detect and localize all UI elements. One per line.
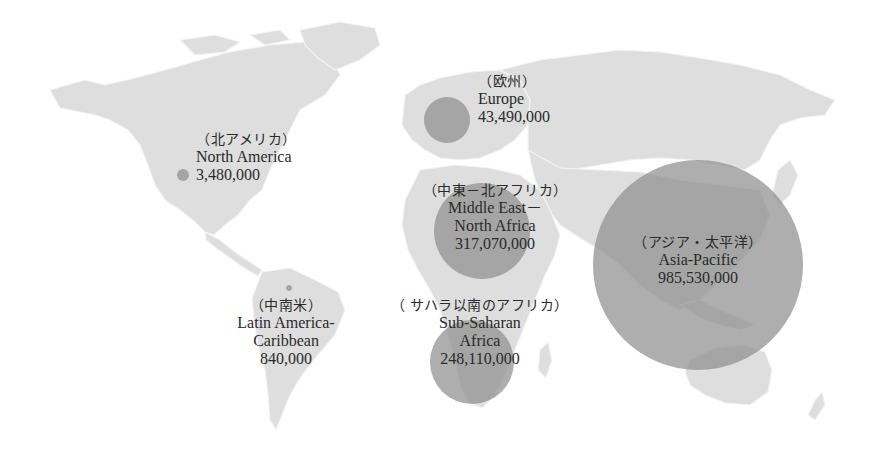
bubble-latin-america-caribbean[interactable] — [286, 285, 292, 291]
region-name-en-line2: Africa — [382, 332, 578, 350]
land-north-asia — [500, 50, 835, 170]
region-value: 840,000 — [222, 350, 350, 368]
region-name-en: Sub-Saharan — [382, 314, 578, 332]
land-central-america — [205, 232, 262, 276]
region-value: 3,480,000 — [196, 166, 297, 184]
region-name-ja: （ サハラ以南のアフリカ） — [382, 296, 578, 314]
label-sub-saharan-africa: （ サハラ以南のアフリカ） Sub-Saharan Africa 248,110… — [382, 296, 578, 368]
label-middle-east-north-africa: （中東－北アフリカ） Middle East－ North Africa 317… — [420, 181, 570, 253]
label-north-america: （北アメリカ） North America 3,480,000 — [196, 130, 297, 184]
region-name-ja: （中東－北アフリカ） — [420, 181, 570, 199]
region-name-en: Middle East－ — [420, 199, 570, 217]
region-value: 985,530,000 — [618, 269, 778, 287]
region-value: 248,110,000 — [382, 350, 578, 368]
region-name-ja: （欧州） — [478, 72, 550, 90]
region-name-ja: （北アメリカ） — [196, 130, 297, 148]
label-europe: （欧州） Europe 43,490,000 — [478, 72, 550, 126]
land-north-america — [50, 42, 340, 235]
region-name-ja: （アジア・太平洋） — [618, 233, 778, 251]
bubble-north-america[interactable] — [177, 169, 189, 181]
region-name-en-line2: Caribbean — [222, 332, 350, 350]
region-name-en: Asia-Pacific — [618, 251, 778, 269]
bubble-europe[interactable] — [424, 97, 470, 143]
region-name-en-line2: North Africa — [420, 217, 570, 235]
region-value: 317,070,000 — [420, 235, 570, 253]
region-value: 43,490,000 — [478, 108, 550, 126]
region-name-en: North America — [196, 148, 297, 166]
label-latin-america-caribbean: （中南米） Latin America- Caribbean 840,000 — [222, 296, 350, 368]
label-asia-pacific: （アジア・太平洋） Asia-Pacific 985,530,000 — [618, 233, 778, 287]
land-new-zealand — [808, 392, 825, 420]
region-name-ja: （中南米） — [222, 296, 350, 314]
region-name-en: Latin America- — [222, 314, 350, 332]
region-name-en: Europe — [478, 90, 550, 108]
